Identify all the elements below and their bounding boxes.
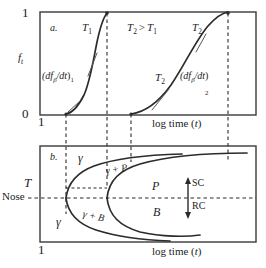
region-gamma-top: γ bbox=[78, 152, 83, 164]
panel-a-y-axis-label: ft bbox=[18, 52, 23, 66]
derivative-2-label: (dfβ/dt) bbox=[180, 71, 208, 84]
comparison-operator: > bbox=[139, 21, 145, 33]
figure-canvas bbox=[0, 0, 266, 268]
region-b: B bbox=[153, 206, 160, 218]
panel-b-x-axis-label: log time (t) bbox=[152, 246, 202, 257]
panel-a-ytick-bottom: 0 bbox=[22, 107, 29, 120]
comparison-t2-sub: 2 bbox=[133, 27, 137, 36]
sc-arrow-head-up bbox=[185, 177, 191, 184]
tangent-t2-lower bbox=[152, 89, 169, 110]
panel-b-xtick-start: 1 bbox=[38, 243, 45, 256]
panel-b-border bbox=[40, 146, 256, 242]
ccurve-2-upper bbox=[107, 153, 247, 198]
panel-b-frame bbox=[40, 146, 256, 242]
rc-arrow-head-down bbox=[185, 212, 191, 219]
label-sc: SC bbox=[192, 178, 204, 188]
curve-t2-label: T2 bbox=[192, 22, 202, 36]
label-rc: RC bbox=[192, 201, 205, 211]
panel-a-id: a. bbox=[50, 23, 58, 33]
panel-b-x-axis-end: ) bbox=[198, 245, 202, 257]
ccurve-1-upper bbox=[66, 154, 182, 198]
curve-t1-subscript: 1 bbox=[88, 27, 92, 36]
tangent-t1-upper bbox=[88, 53, 97, 76]
region-p: P bbox=[152, 180, 159, 192]
panel-a-x-axis-text: log time ( bbox=[152, 117, 195, 129]
derivative-2-close: ) bbox=[205, 70, 208, 81]
nose-line-group bbox=[28, 188, 256, 198]
derivative-2-subscript: 2 bbox=[205, 89, 208, 96]
panel-a-x-axis-label: log time (t) bbox=[152, 118, 202, 129]
curve-t2-lower-label: T2 bbox=[155, 72, 165, 86]
panel-a-y-axis-subscript: t bbox=[21, 57, 23, 66]
figure-container: 1 0 ft a. T1 T2>T1 T2 T2 (dfβ/dt)1 (dfβ/… bbox=[0, 0, 266, 268]
derivative-1-label: (dfβ/dt)1 bbox=[42, 71, 74, 84]
derivative-1-subscript: 1 bbox=[70, 76, 73, 83]
panel-b-x-axis-text: log time ( bbox=[152, 245, 195, 257]
temperature-comparison-label: T2>T1 bbox=[127, 22, 157, 36]
derivative-2-subscript-wrap: 2 bbox=[205, 84, 208, 97]
nose-label: Nose bbox=[2, 191, 25, 202]
comparison-t1-sub: 1 bbox=[153, 27, 157, 36]
region-gamma-left: γ bbox=[56, 216, 61, 228]
panel-b-id: b. bbox=[50, 152, 58, 162]
curve-t2-subscript: 2 bbox=[198, 27, 202, 36]
curve-t2-lower-subscript: 2 bbox=[161, 77, 165, 86]
panel-a-xtick-start: 1 bbox=[38, 115, 45, 128]
panel-a-x-axis-end: ) bbox=[198, 117, 202, 129]
panel-b-y-axis-label: T bbox=[24, 176, 31, 189]
curve-t1-label: T1 bbox=[82, 22, 92, 36]
panel-b-ttt-curves bbox=[66, 153, 247, 241]
panel-a-ytick-top: 1 bbox=[22, 6, 29, 19]
